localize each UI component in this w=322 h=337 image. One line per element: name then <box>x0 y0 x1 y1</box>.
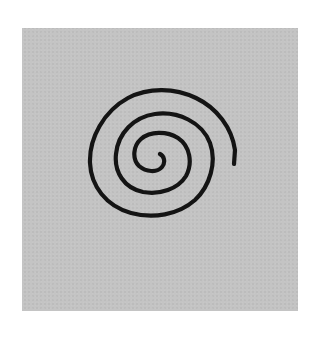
spiral-stroke <box>90 90 235 216</box>
spiral-drawing <box>0 0 322 337</box>
